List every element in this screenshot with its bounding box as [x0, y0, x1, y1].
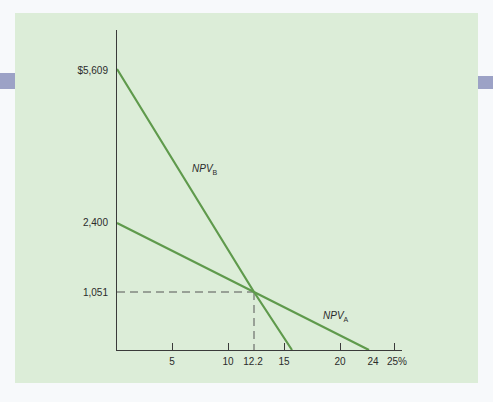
x-tick-label-24: 24: [367, 356, 379, 367]
series-npv-a-line: [117, 223, 369, 350]
x-tick-label-12-2: 12.2: [243, 356, 263, 367]
x-tick-label-15: 15: [278, 356, 290, 367]
series-label-npv-a: NPVA: [323, 310, 349, 323]
x-tick-label-20: 20: [334, 356, 346, 367]
y-tick-label-5609: $5,609: [77, 65, 108, 76]
series-label-npv-b: NPVB: [192, 163, 218, 176]
npv-profile-chart: 5 10 12.2 15 20 24 25% $5,609 2,400 1,05…: [0, 0, 493, 402]
series-npv-b-line: [117, 69, 292, 350]
x-tick-label-10: 10: [222, 356, 234, 367]
x-tick-label-5: 5: [169, 356, 175, 367]
y-tick-label-2400: 2,400: [83, 217, 108, 228]
x-tick-label-25: 25%: [387, 356, 407, 367]
crossover-guides: [117, 292, 254, 350]
y-tick-label-1051: 1,051: [83, 287, 108, 298]
